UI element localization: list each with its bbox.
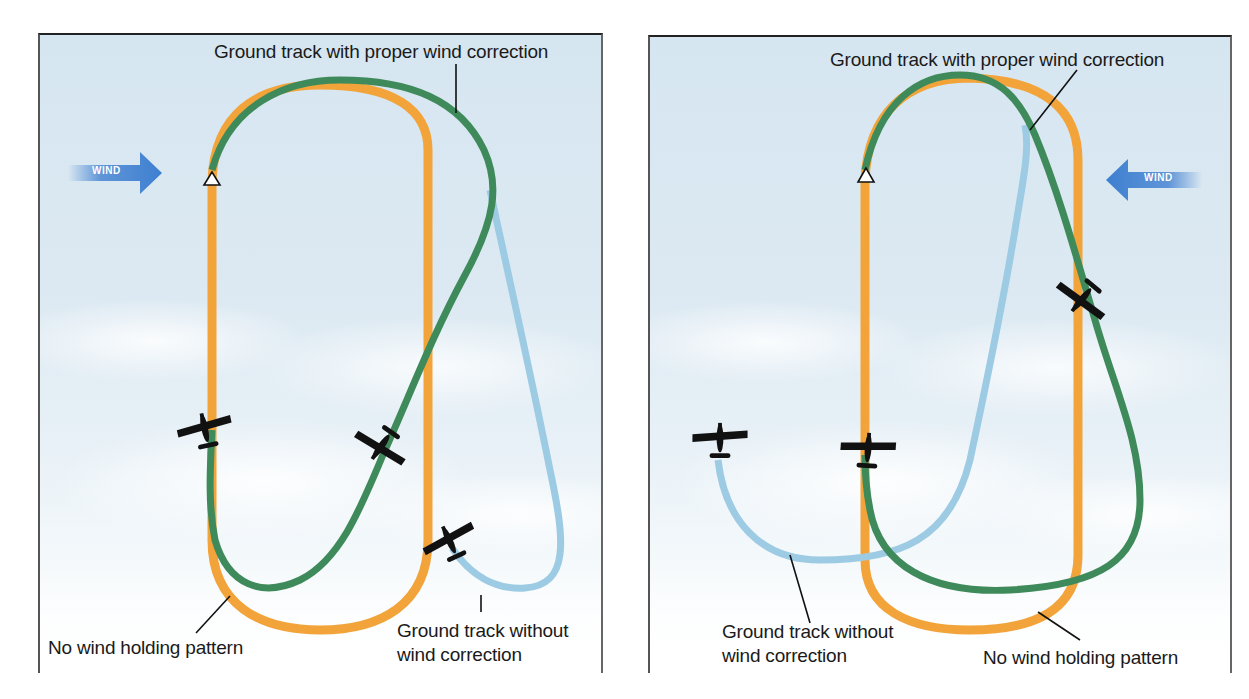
holding-pattern-tracks (0, 0, 1249, 699)
wind-indicator-right: WIND (1106, 160, 1202, 200)
without-correction-track (718, 125, 1027, 560)
airplane-icon (839, 431, 896, 470)
with-correction-track (210, 80, 493, 588)
airplane-icon (350, 414, 415, 474)
triangle-icon (204, 172, 220, 185)
label-without-correction-1: Ground track without (397, 620, 568, 642)
label-with-correction: Ground track with proper wind correction (830, 49, 1164, 71)
airplane-icon (174, 408, 235, 454)
airplane-icon (692, 423, 747, 458)
wind-indicator-left: WIND (68, 153, 164, 193)
wind-label: WIND (92, 165, 121, 176)
label-without-correction-2: wind correction (722, 645, 847, 667)
label-no-wind-pattern: No wind holding pattern (48, 637, 243, 659)
leader-line (196, 596, 230, 633)
triangle-icon (858, 168, 874, 182)
leader-line (790, 555, 810, 623)
leader-line (1038, 612, 1080, 640)
left-tracks (68, 64, 561, 633)
wind-label: WIND (1144, 172, 1173, 183)
right-tracks (692, 70, 1202, 640)
label-no-wind-pattern: No wind holding pattern (983, 647, 1178, 669)
figure-caption-cutoff (70, 692, 610, 699)
with-correction-track (865, 75, 1140, 590)
label-without-correction-2: wind correction (397, 644, 522, 666)
no-wind-pattern-track (212, 85, 428, 630)
label-without-correction-1: Ground track without (722, 621, 893, 643)
label-with-correction: Ground track with proper wind correction (214, 41, 548, 63)
